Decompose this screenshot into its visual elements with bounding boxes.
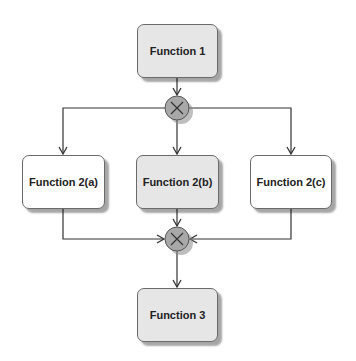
node-function-1[interactable]: Function 1 [137,24,218,78]
edge-f2a-join [63,209,164,239]
edge-f2c-join [190,209,291,239]
node-function-2c[interactable]: Function 2(c) [250,155,332,209]
xor-join-connector [165,227,193,255]
edge-split-f2a [63,108,165,154]
xor-split-connector [165,96,193,124]
node-function-3[interactable]: Function 3 [137,288,218,342]
node-label: Function 2(c) [256,176,325,188]
node-label: Function 1 [150,45,206,57]
node-label: Function 2(a) [29,176,98,188]
node-label: Function 2(b) [143,176,213,188]
node-function-2b[interactable]: Function 2(b) [136,155,219,209]
edge-split-f2c [189,108,291,154]
node-label: Function 3 [150,309,206,321]
node-function-2a[interactable]: Function 2(a) [22,155,105,209]
